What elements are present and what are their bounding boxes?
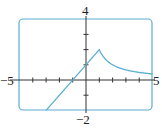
chart-plot <box>0 0 162 129</box>
